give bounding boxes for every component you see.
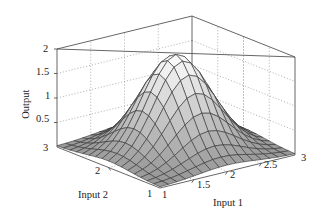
x-tick-1: 1	[162, 190, 167, 201]
x-tick-3: 3	[301, 153, 306, 164]
y-tick-1: 1	[147, 189, 152, 200]
x-tick-2: 2	[230, 170, 235, 181]
surface-plot: 2 1.5 1 0.5 Output 3 2 1 Input 2 1 1.5 2…	[0, 0, 323, 218]
z-tick-1: 1	[45, 91, 50, 102]
y-tick-2: 2	[95, 166, 100, 177]
z-tick-1-5: 1.5	[36, 67, 49, 78]
surface-plot-canvas	[0, 0, 323, 218]
x-axis-label: Input 1	[213, 198, 243, 209]
x-tick-1-5: 1.5	[197, 180, 210, 191]
z-axis-label: Output	[21, 90, 32, 119]
y-axis-label: Input 2	[78, 190, 108, 201]
y-tick-3: 3	[43, 143, 48, 154]
x-tick-2-5: 2.5	[264, 160, 277, 171]
z-tick-0-5: 0.5	[36, 114, 49, 125]
z-tick-2: 2	[43, 44, 48, 55]
